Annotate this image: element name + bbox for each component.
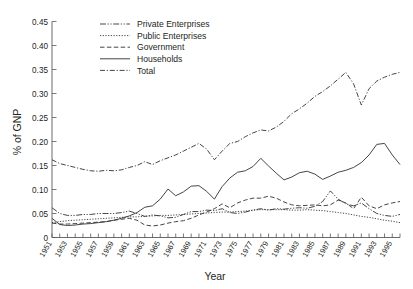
y-axis-tick-marks [52, 22, 57, 238]
legend-label: Public Enterprises [137, 31, 206, 41]
series-line-private-enterprises [52, 191, 400, 218]
y-tick-label: 0.35 [32, 66, 48, 75]
x-tick-label: 1983 [285, 240, 301, 259]
legend-label: Private Enterprises [137, 19, 210, 29]
x-axis-tick-labels: 1951195319551957195919611963196519671969… [37, 239, 394, 258]
x-tick-label: 1953 [53, 240, 69, 259]
x-tick-label: 1973 [208, 240, 224, 259]
y-tick-label: 0.05 [32, 210, 48, 219]
x-tick-label: 1985 [300, 240, 316, 259]
x-tick-label: 1995 [378, 240, 394, 259]
legend-label: Total [137, 66, 155, 76]
y-tick-label: 0.15 [32, 162, 48, 171]
x-axis-title: Year [204, 270, 226, 282]
legend-label: Households [137, 54, 182, 64]
x-tick-label: 1959 [99, 240, 115, 259]
x-tick-label: 1961 [115, 240, 131, 259]
x-tick-label: 1993 [362, 240, 378, 259]
y-tick-label: 0.25 [32, 114, 48, 123]
x-tick-label: 1987 [316, 240, 332, 259]
x-tick-label: 1965 [146, 240, 162, 259]
x-tick-label: 1979 [254, 240, 270, 259]
y-tick-label: 0.10 [32, 186, 48, 195]
series-line-total [52, 72, 400, 171]
x-tick-label: 1969 [177, 240, 193, 259]
line-chart: 00.050.100.150.200.250.300.350.400.45 19… [0, 0, 413, 289]
y-tick-label: 0.40 [32, 42, 48, 51]
x-tick-label: 1967 [161, 240, 177, 259]
x-tick-label: 1991 [347, 240, 363, 259]
x-tick-label: 1975 [223, 240, 239, 259]
x-tick-label: 1955 [68, 240, 84, 259]
legend-label: Government [137, 42, 185, 52]
x-tick-label: 1989 [331, 240, 347, 259]
x-tick-label: 1977 [239, 239, 255, 258]
series-line-public-enterprises [52, 210, 400, 223]
x-tick-label: 1981 [269, 240, 285, 259]
series-lines [52, 72, 400, 226]
x-tick-label: 1957 [84, 240, 100, 259]
x-tick-label: 1963 [130, 240, 146, 259]
x-axis-tick-marks [52, 234, 400, 238]
chart-legend: Private EnterprisesPublic EnterprisesGov… [100, 19, 210, 75]
y-axis-title: % of GNP [11, 109, 23, 156]
x-tick-label: 1951 [37, 240, 53, 259]
x-tick-label: 1971 [192, 240, 208, 259]
y-tick-label: 0.30 [32, 90, 48, 99]
y-tick-label: 0.45 [32, 18, 48, 27]
y-tick-label: 0.20 [32, 138, 48, 147]
y-axis-tick-labels: 00.050.100.150.200.250.300.350.400.45 [32, 18, 48, 243]
chart-figure: 00.050.100.150.200.250.300.350.400.45 19… [0, 0, 413, 289]
